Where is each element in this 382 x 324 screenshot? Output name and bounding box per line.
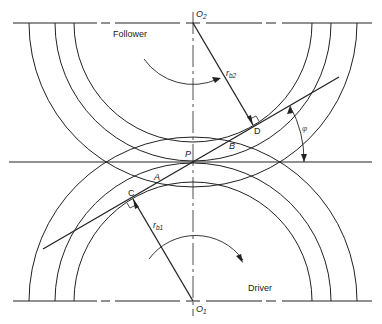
phi-arrowhead-bottom-icon (301, 154, 307, 162)
driver-rotation-arrow (149, 235, 243, 260)
rb2-label: rb2 (226, 69, 236, 80)
point-b-label: B (229, 142, 235, 151)
follower-arrowhead-icon (212, 77, 221, 83)
gear-diagram (0, 0, 382, 324)
driver-arrowhead-icon (236, 254, 243, 263)
rb2-radius-line (193, 23, 253, 125)
line-of-action (43, 77, 339, 249)
point-a-label: A (154, 173, 160, 182)
rb1-label: rb1 (153, 221, 163, 232)
o2-label: O2 (196, 10, 207, 21)
point-d-label: D (254, 127, 261, 136)
o1-label: O1 (196, 305, 207, 316)
rb1-radius-line (133, 199, 193, 301)
pitch-point-label: P (185, 150, 191, 159)
phi-label: φ (302, 125, 307, 133)
follower-rotation-arrow (144, 59, 218, 84)
point-c-label: C (128, 189, 135, 198)
driver-label: Driver (248, 284, 272, 293)
follower-label: Follower (113, 30, 147, 39)
